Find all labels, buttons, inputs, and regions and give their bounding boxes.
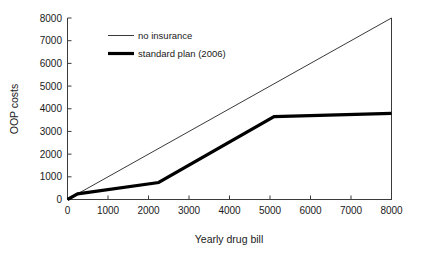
y-tick-label: 4000: [40, 103, 63, 114]
x-tick-label: 2000: [137, 205, 160, 216]
chart-container: 010002000300040005000600070008000 010002…: [0, 0, 422, 261]
y-tick-label: 1000: [40, 171, 63, 182]
x-tick-label: 8000: [380, 205, 403, 216]
y-tick-label: 6000: [40, 58, 63, 69]
y-tick-label: 0: [56, 194, 62, 205]
y-tick-label: 5000: [40, 81, 63, 92]
y-tick-label: 3000: [40, 126, 63, 137]
y-axis-title: OOP costs: [8, 84, 20, 135]
x-tick-label: 3000: [178, 205, 201, 216]
chart-background: [0, 0, 422, 261]
x-axis-title: Yearly drug bill: [195, 233, 264, 245]
y-axis-tick-labels: 010002000300040005000600070008000: [40, 13, 63, 206]
x-axis-tick-labels: 010002000300040005000600070008000: [65, 205, 403, 216]
y-tick-label: 2000: [40, 149, 63, 160]
legend-label-no-insurance: no insurance: [138, 30, 192, 41]
x-tick-label: 1000: [97, 205, 120, 216]
x-tick-label: 4000: [218, 205, 241, 216]
y-tick-label: 8000: [40, 13, 63, 24]
x-tick-label: 0: [65, 205, 71, 216]
legend-label-standard-plan: standard plan (2006): [138, 48, 226, 59]
x-tick-label: 6000: [299, 205, 322, 216]
x-tick-label: 7000: [340, 205, 363, 216]
x-tick-label: 5000: [259, 205, 282, 216]
y-tick-label: 7000: [40, 35, 63, 46]
line-chart: 010002000300040005000600070008000 010002…: [0, 0, 422, 261]
